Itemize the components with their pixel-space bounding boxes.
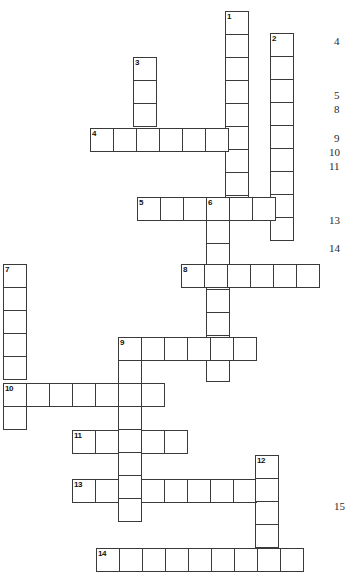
crossword-cell[interactable] [273,264,297,288]
crossword-cell[interactable] [3,264,27,288]
clue-number-13: 13 [329,215,340,226]
crossword-cell[interactable] [133,80,157,104]
crossword-cell[interactable] [206,289,230,313]
clue-number-11: 11 [329,161,340,172]
crossword-cell[interactable] [3,310,27,334]
crossword-cell[interactable] [252,197,276,221]
crossword-cell[interactable] [225,172,249,196]
clue-number-9: 9 [334,133,340,144]
crossword-cell[interactable] [233,479,257,503]
crossword-cell[interactable] [90,128,114,152]
crossword-cell[interactable] [227,264,251,288]
crossword-cell[interactable] [206,358,230,382]
crossword-cell[interactable] [136,128,160,152]
crossword-cell[interactable] [95,479,119,503]
clue-number-15: 15 [334,501,345,512]
crossword-cell[interactable] [119,548,143,572]
crossword-cell[interactable] [95,430,119,454]
crossword-cell[interactable] [255,501,279,525]
crossword-cell[interactable] [280,548,304,572]
crossword-cell[interactable] [270,125,294,149]
crossword-cell[interactable] [233,337,257,361]
crossword-cell[interactable] [118,360,142,384]
crossword-cell[interactable] [118,498,142,522]
crossword-cell[interactable] [225,80,249,104]
crossword-cell[interactable] [270,33,294,57]
crossword-cell[interactable] [225,57,249,81]
crossword-cell[interactable] [206,312,230,336]
crossword-cell[interactable] [165,548,189,572]
crossword-cell[interactable] [187,479,211,503]
crossword-cell[interactable] [210,479,234,503]
crossword-cell[interactable] [164,479,188,503]
crossword-cell[interactable] [225,11,249,35]
crossword-cell[interactable] [234,548,258,572]
crossword-cell[interactable] [225,126,249,150]
crossword-cell[interactable] [142,548,166,572]
crossword-cell[interactable] [164,337,188,361]
crossword-cell[interactable] [181,264,205,288]
crossword-cell[interactable] [270,79,294,103]
clue-number-10: 10 [329,147,340,158]
crossword-cell[interactable] [296,264,320,288]
crossword-cell[interactable] [95,383,119,407]
crossword-cell[interactable] [3,333,27,357]
crossword-cell[interactable] [270,56,294,80]
crossword-cell[interactable] [229,197,253,221]
clue-number-8: 8 [334,104,340,115]
crossword-cell[interactable] [225,149,249,173]
crossword-cell[interactable] [3,383,27,407]
crossword-cell[interactable] [3,356,27,380]
crossword-cell[interactable] [255,478,279,502]
crossword-cell[interactable] [137,197,161,221]
crossword-cell[interactable] [72,383,96,407]
crossword-cell[interactable] [188,548,212,572]
crossword-cell[interactable] [206,243,230,267]
clue-number-14: 14 [329,243,340,254]
crossword-cell[interactable] [160,197,184,221]
crossword-cell[interactable] [270,217,294,241]
crossword-cell[interactable] [118,406,142,430]
crossword-cell[interactable] [210,337,234,361]
crossword-cell[interactable] [211,548,235,572]
crossword-cell[interactable] [141,383,165,407]
crossword-cell[interactable] [118,452,142,476]
crossword-cell[interactable] [205,128,229,152]
crossword-cell[interactable] [206,220,230,244]
crossword-cell[interactable] [257,548,281,572]
crossword-cell[interactable] [255,524,279,548]
crossword-cell[interactable] [270,148,294,172]
crossword-cell[interactable] [141,337,165,361]
crossword-cell[interactable] [133,57,157,81]
crossword-cell[interactable] [133,103,157,127]
crossword-cell[interactable] [187,337,211,361]
clue-number-4: 4 [334,36,340,47]
crossword-cell[interactable] [225,34,249,58]
crossword-cell[interactable] [3,406,27,430]
crossword-cell[interactable] [26,383,50,407]
crossword-cell[interactable] [255,455,279,479]
crossword-cell[interactable] [250,264,274,288]
crossword-cell[interactable] [182,128,206,152]
crossword-cell[interactable] [118,383,142,407]
crossword-cell[interactable] [96,548,120,572]
crossword-cell[interactable] [118,429,142,453]
crossword-cell[interactable] [3,287,27,311]
crossword-cell[interactable] [204,264,228,288]
crossword-cell[interactable] [206,197,230,221]
crossword-cell[interactable] [141,430,165,454]
crossword-cell[interactable] [270,171,294,195]
crossword-cell[interactable] [164,430,188,454]
crossword-cell[interactable] [141,479,165,503]
crossword-cell[interactable] [118,337,142,361]
crossword-cell[interactable] [225,103,249,127]
crossword-cell[interactable] [118,475,142,499]
crossword-cell[interactable] [49,383,73,407]
crossword-cell[interactable] [72,479,96,503]
crossword-cell[interactable] [159,128,183,152]
crossword-cell[interactable] [183,197,207,221]
crossword-cell[interactable] [113,128,137,152]
crossword-cell[interactable] [270,102,294,126]
crossword-cell[interactable] [72,430,96,454]
